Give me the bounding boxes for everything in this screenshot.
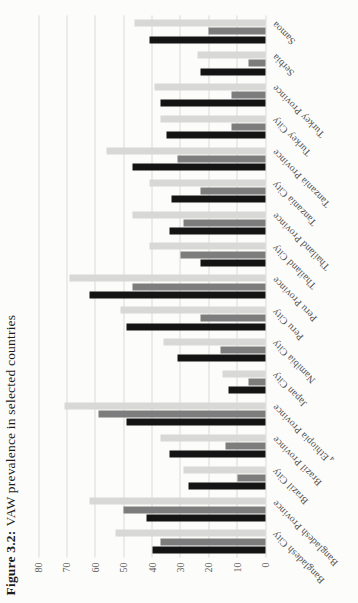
figure-title: Figure 3.2:VAW prevalence in selected co… [2, 314, 18, 595]
bar-group-japan-city [38, 366, 265, 398]
bar-group-bangladesh-city [38, 525, 265, 557]
y-tick-label-10: 10 [231, 562, 243, 603]
bar-group-peru-city [38, 302, 265, 334]
bar-namibia-city-light-gray [163, 338, 265, 345]
bar-japan-city-light-gray [222, 370, 265, 377]
figure-label: Figure 3.2: [2, 530, 17, 595]
bar-serbia-dark-gray [248, 59, 265, 66]
y-tick-label-60: 60 [89, 562, 101, 603]
bar-brazil-province-black [169, 450, 265, 457]
bar-tanzania-province-dark-gray [177, 155, 265, 162]
y-axis: 01020304050607080 [38, 562, 265, 603]
bar-tanzania-province-light-gray [106, 147, 265, 154]
bar-turkey-city-light-gray [160, 115, 265, 122]
bar-bangladesh-city-light-gray [115, 529, 265, 536]
bar-thailand-province-black [169, 227, 265, 234]
bar-thailand-province-dark-gray [183, 219, 265, 226]
bar-bangladesh-city-dark-gray [160, 538, 265, 545]
bar-peru-province-light-gray [69, 274, 265, 281]
x-category-label-tanzania-province: Tanzania Province [269, 147, 332, 210]
chart-plot-area [38, 15, 265, 557]
bar-namibia-city-black [177, 354, 265, 361]
bar-thailand-province-light-gray [132, 211, 265, 218]
bar-thailand-city-light-gray [149, 242, 265, 249]
bar-samoa-black [149, 36, 265, 43]
bar-group-tanzania-province [38, 143, 265, 175]
bar-namibia-city-dark-gray [220, 346, 265, 353]
bar-ethiopia-province-light-gray [64, 402, 265, 409]
bar-turkey-province-black [160, 99, 265, 106]
bar-japan-city-black [228, 386, 265, 393]
bar-bangladesh-province-dark-gray [123, 506, 265, 513]
bar-ethiopia-province-black [126, 418, 265, 425]
bar-peru-city-light-gray [120, 306, 265, 313]
bar-brazil-province-light-gray [160, 434, 265, 441]
bar-group-ethiopia-province [38, 398, 265, 430]
bar-group-turkey-province [38, 79, 265, 111]
x-category-label-serbia: Serbia [269, 51, 296, 78]
x-category-label-samoa: Samoa [269, 19, 297, 47]
y-tick-label-80: 80 [32, 562, 44, 603]
bar-group-turkey-city [38, 111, 265, 143]
bar-thailand-city-black [200, 259, 265, 266]
bar-peru-city-black [126, 323, 265, 330]
bar-group-peru-province [38, 270, 265, 302]
bar-brazil-province-dark-gray [225, 442, 265, 449]
x-axis: Bangladesh CityBangladesh ProvinceBrazil… [269, 15, 358, 557]
bar-samoa-light-gray [134, 19, 265, 26]
figure-title-text: VAW prevalence in selected countries [2, 314, 17, 526]
bar-bangladesh-province-black [146, 514, 265, 521]
bar-group-brazil-city [38, 461, 265, 493]
y-tick-label-0: 0 [259, 562, 271, 603]
bar-group-brazil-province [38, 429, 265, 461]
y-tick-label-50: 50 [117, 562, 129, 603]
bar-tanzania-city-light-gray [149, 179, 265, 186]
bar-bangladesh-province-light-gray [89, 498, 265, 505]
y-tick-label-30: 30 [174, 562, 186, 603]
bar-brazil-city-black [188, 482, 265, 489]
bar-turkey-province-light-gray [154, 83, 265, 90]
bar-brazil-city-light-gray [183, 466, 265, 473]
x-category-label-ethiopia-province: 4Ethiopia Province [269, 402, 334, 467]
bar-thailand-city-dark-gray [180, 251, 265, 258]
footnote-marker-ethiopia-province: 4 [327, 454, 335, 462]
bar-serbia-light-gray [197, 51, 265, 58]
bar-group-tanzania-city [38, 174, 265, 206]
scanned-figure-page: Figure 3.2:VAW prevalence in selected co… [0, 0, 358, 603]
y-tick-label-20: 20 [202, 562, 214, 603]
bar-bangladesh-city-black [152, 546, 266, 553]
bar-tanzania-city-black [171, 195, 265, 202]
bar-peru-city-dark-gray [200, 314, 265, 321]
bar-japan-city-dark-gray [248, 378, 265, 385]
y-tick-label-40: 40 [146, 562, 158, 603]
bar-group-serbia [38, 47, 265, 79]
bar-group-bangladesh-province [38, 493, 265, 525]
bar-turkey-province-dark-gray [231, 91, 265, 98]
bar-tanzania-city-dark-gray [200, 187, 265, 194]
bar-group-thailand-province [38, 206, 265, 238]
bar-peru-province-dark-gray [132, 283, 265, 290]
bar-peru-province-black [89, 291, 265, 298]
bar-ethiopia-province-dark-gray [98, 410, 265, 417]
bar-serbia-black [200, 68, 265, 75]
bar-group-thailand-city [38, 238, 265, 270]
bar-turkey-city-dark-gray [231, 123, 265, 130]
bar-brazil-city-dark-gray [237, 474, 265, 481]
bar-turkey-city-black [166, 131, 265, 138]
bar-group-namibia-city [38, 334, 265, 366]
bar-group-samoa [38, 15, 265, 47]
bar-tanzania-province-black [132, 163, 265, 170]
bar-samoa-dark-gray [208, 27, 265, 34]
y-tick-label-70: 70 [60, 562, 72, 603]
figure-container: Figure 3.2:VAW prevalence in selected co… [0, 0, 358, 603]
x-category-label-thailand-province: Thailand Province [269, 210, 331, 272]
